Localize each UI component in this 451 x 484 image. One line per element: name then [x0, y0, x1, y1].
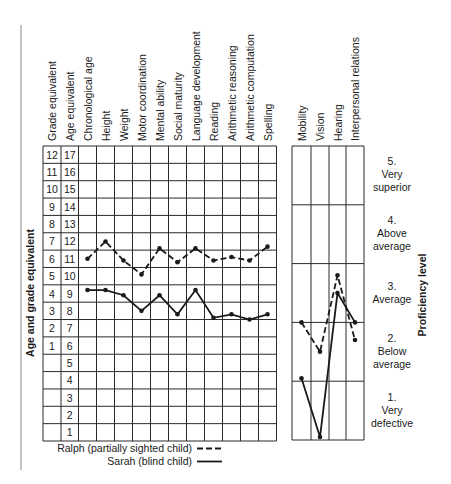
data-point — [175, 312, 180, 317]
level-label: Above — [377, 227, 407, 239]
age-tick: 14 — [64, 201, 76, 213]
grade-tick: 6 — [49, 253, 55, 265]
level-label: 5. — [388, 155, 397, 167]
data-point — [157, 293, 162, 298]
legend: Ralph (partially sighted child)Sarah (bl… — [57, 442, 222, 467]
data-point — [139, 272, 144, 277]
column-header: Vision — [314, 112, 326, 141]
grade-tick: 2 — [49, 322, 55, 334]
data-point — [175, 260, 180, 265]
level-label: defective — [371, 417, 413, 429]
column-header: Mobility — [296, 105, 308, 141]
y-axis-label: Age and grade equivalent — [24, 229, 36, 357]
age-tick: 4 — [67, 374, 73, 386]
column-header: Arithmetic computation — [244, 34, 256, 141]
data-point — [299, 320, 304, 325]
age-tick: 3 — [67, 392, 73, 404]
grade-tick: 10 — [46, 183, 58, 195]
column-header: Hearing — [332, 104, 344, 141]
proficiency-grid — [292, 146, 364, 440]
level-label: 3. — [388, 280, 397, 292]
grade-tick: 11 — [47, 166, 58, 178]
data-point — [247, 258, 252, 263]
grade-tick: 7 — [49, 235, 55, 247]
column-header: Mental ability — [154, 79, 166, 141]
grade-tick: 12 — [46, 149, 58, 161]
data-point — [121, 293, 126, 298]
age-tick: 5 — [67, 357, 73, 369]
data-point — [139, 309, 144, 314]
data-point — [211, 315, 216, 320]
age-tick: 15 — [64, 183, 76, 195]
column-header: Interpersonal relations — [349, 37, 361, 141]
age-tick: 1 — [67, 426, 73, 438]
data-point — [353, 320, 358, 325]
grade-tick: 9 — [49, 201, 55, 213]
column-header: Grade equivalent — [46, 61, 58, 141]
proficiency-axis-label: Proficiency level — [416, 253, 428, 336]
grade-tick: 1 — [49, 340, 55, 352]
column-header: Age equivalent — [64, 71, 76, 141]
data-point — [229, 312, 234, 317]
level-label: 1. — [388, 391, 397, 403]
column-header: Motor coordination — [136, 54, 148, 141]
data-point — [335, 291, 340, 296]
column-header: Spelling — [262, 103, 274, 141]
grade-tick: 5 — [49, 270, 55, 282]
proficiency-series — [299, 273, 357, 439]
legend-label: Sarah (blind child) — [107, 455, 192, 467]
proficiency-level-labels: 5.Verysuperior4.Aboveaverage3.Average2.B… — [371, 155, 413, 428]
left-column-headers: Grade equivalentAge equivalentChronologi… — [46, 31, 274, 141]
level-label: average — [373, 240, 411, 252]
data-point — [157, 246, 162, 251]
grade-tick: 8 — [49, 218, 55, 230]
data-point — [103, 239, 108, 244]
column-header: Chronological age — [82, 56, 94, 141]
data-point — [103, 288, 108, 293]
age-tick: 17 — [64, 149, 76, 161]
data-point — [193, 288, 198, 293]
age-grade-series — [85, 239, 270, 322]
data-point — [265, 244, 270, 249]
level-label: 4. — [388, 214, 397, 226]
level-label: 2. — [388, 332, 397, 344]
data-point — [85, 288, 90, 293]
age-tick: 6 — [67, 340, 73, 352]
data-point — [335, 273, 340, 278]
level-label: average — [373, 358, 411, 370]
age-tick: 12 — [64, 235, 76, 247]
data-point — [193, 246, 198, 251]
age-tick: 7 — [67, 322, 73, 334]
chart-canvas: Grade equivalentAge equivalentChronologi… — [0, 0, 451, 484]
right-column-headers: MobilityVisionHearingInterpersonal relat… — [296, 37, 362, 141]
data-point — [85, 256, 90, 261]
data-point — [318, 435, 323, 440]
ralph-line — [302, 275, 356, 351]
legend-label: Ralph (partially sighted child) — [57, 442, 192, 454]
age-tick: 2 — [67, 409, 73, 421]
developmental-profile-chart: Grade equivalentAge equivalentChronologi… — [0, 0, 451, 484]
age-tick: 16 — [64, 166, 76, 178]
data-point — [299, 376, 304, 381]
data-point — [353, 338, 358, 343]
data-point — [247, 317, 252, 322]
level-label: Average — [373, 293, 412, 305]
data-point — [229, 255, 234, 260]
column-header: Language development — [190, 31, 202, 141]
level-label: superior — [373, 181, 411, 193]
age-tick: 13 — [64, 218, 76, 230]
column-header: Reading — [208, 102, 220, 141]
level-label: Below — [378, 345, 407, 357]
age-tick: 10 — [64, 270, 76, 282]
age-tick: 11 — [64, 253, 75, 265]
column-header: Social maturity — [172, 71, 184, 141]
data-point — [265, 312, 270, 317]
column-header: Height — [100, 111, 112, 141]
age-tick: 9 — [67, 288, 73, 300]
grade-tick: 4 — [49, 288, 55, 300]
column-header: Weight — [118, 108, 130, 141]
level-label: Very — [381, 168, 403, 180]
data-point — [318, 350, 323, 355]
age-tick: 8 — [67, 305, 73, 317]
data-point — [211, 258, 216, 263]
